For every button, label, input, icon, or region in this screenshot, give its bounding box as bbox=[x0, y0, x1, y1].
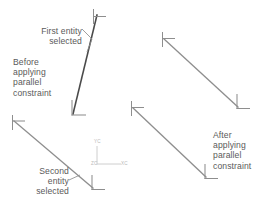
axis-label-zc: ZC bbox=[91, 161, 98, 166]
before-applying-label: Before applying parallel constraint bbox=[13, 57, 79, 98]
result-line-upper[interactable] bbox=[164, 39, 238, 107]
second-entity-label: Second entity selected bbox=[9, 166, 69, 197]
second-entity-start-endpoint-marker[interactable] bbox=[12, 115, 25, 130]
coordinate-triad bbox=[97, 146, 121, 164]
diagram-canvas: First entity selected Before applying pa… bbox=[0, 0, 271, 217]
axis-label-xc: XC bbox=[121, 161, 128, 166]
second-entity-leader-line bbox=[69, 175, 80, 180]
first-entity-label: First entity selected bbox=[18, 26, 82, 46]
axis-label-yc: YC bbox=[94, 139, 101, 144]
after-applying-label: After applying parallel constraint bbox=[213, 130, 269, 171]
result-line-lower[interactable] bbox=[133, 108, 206, 177]
